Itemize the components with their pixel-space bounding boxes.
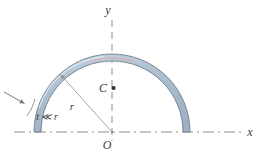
centroid-marker-group bbox=[111, 86, 115, 90]
diagram-svg: y x O C r t ≪ r bbox=[0, 0, 258, 165]
origin-dot bbox=[111, 131, 113, 133]
thickness-bracket bbox=[27, 99, 35, 116]
centroid-dot bbox=[111, 86, 115, 90]
thickness-label: t ≪ r bbox=[36, 111, 58, 122]
origin-label: O bbox=[103, 138, 112, 152]
x-axis-label: x bbox=[246, 125, 253, 139]
figure-canvas: y x O C r t ≪ r bbox=[0, 0, 258, 165]
centroid-label: C bbox=[99, 81, 108, 95]
radius-label: r bbox=[70, 100, 75, 112]
axes-group bbox=[14, 20, 243, 141]
thickness-leader-line bbox=[4, 92, 25, 104]
y-axis-label: y bbox=[104, 3, 111, 17]
thickness-dimension bbox=[4, 92, 35, 116]
origin-marker-group bbox=[111, 131, 113, 133]
